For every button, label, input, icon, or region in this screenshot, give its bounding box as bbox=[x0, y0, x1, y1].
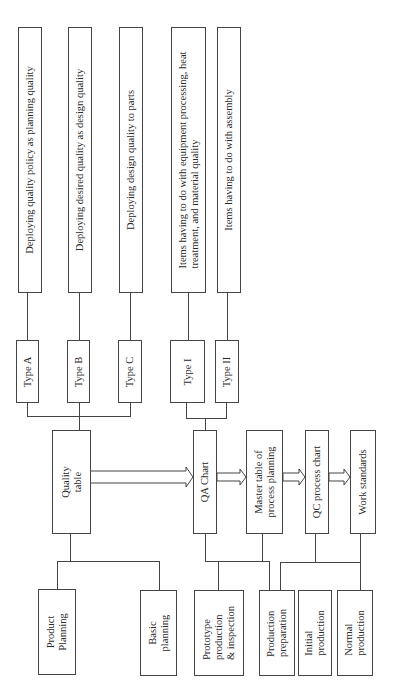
arrow-qa-to-master-icon bbox=[217, 469, 246, 485]
bottom-box-line2: preparation bbox=[277, 609, 289, 657]
arrow-qc-to-work-icon bbox=[329, 469, 350, 485]
connector bbox=[218, 561, 219, 590]
connector bbox=[57, 561, 58, 590]
connector bbox=[57, 561, 160, 562]
connector bbox=[262, 534, 263, 562]
connector bbox=[70, 534, 71, 562]
connector bbox=[205, 561, 270, 562]
bottom-box-line2: production bbox=[355, 610, 367, 656]
basic-planning-box: Basic planning bbox=[140, 590, 177, 676]
production-preparation-box: Production preparation bbox=[259, 590, 295, 676]
flow-arrows bbox=[0, 0, 394, 688]
arrow-master-to-qc-icon bbox=[283, 469, 305, 485]
bottom-box-line2: production bbox=[213, 606, 225, 660]
bottom-box-line1: Production bbox=[265, 609, 277, 657]
connector bbox=[205, 534, 206, 562]
bottom-box-line1: Initial bbox=[303, 610, 315, 656]
connector bbox=[280, 562, 361, 563]
connector bbox=[315, 534, 316, 562]
arrow-quality-to-qa-icon bbox=[91, 467, 193, 487]
normal-production-box: Normal production bbox=[337, 590, 373, 676]
bottom-box-line1: Product bbox=[45, 613, 57, 650]
bottom-box-line1: Prototype bbox=[201, 606, 213, 660]
connector bbox=[269, 561, 270, 590]
bottom-box-line3: & inspection bbox=[225, 606, 237, 660]
prototype-production-box: Prototype production & inspection bbox=[194, 590, 244, 676]
bottom-box-line1: Basic bbox=[147, 615, 159, 652]
product-planning-box: Product Planning bbox=[38, 589, 76, 675]
connector bbox=[280, 562, 281, 590]
bottom-box-line2: planning bbox=[159, 615, 171, 652]
bottom-box-line2: production bbox=[315, 610, 327, 656]
bottom-box-line2: Planning bbox=[57, 613, 69, 650]
initial-production-box: Initial production bbox=[298, 590, 332, 676]
connector bbox=[159, 561, 160, 590]
bottom-box-line1: Normal bbox=[343, 610, 355, 656]
